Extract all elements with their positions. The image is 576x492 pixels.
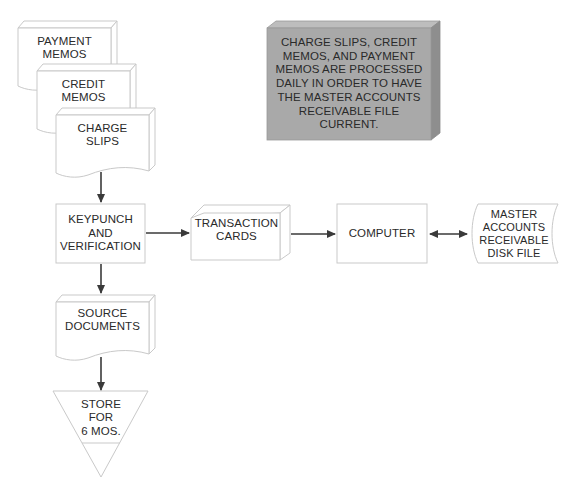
credit-memos-label: CREDIT MEMOS: [37, 71, 130, 111]
source-documents-label: SOURCE DOCUMENTS: [56, 302, 149, 338]
disk-file-label: MASTER ACCOUNTS RECEIVABLE DISK FILE: [470, 204, 558, 263]
note-text: CHARGE SLIPS, CREDIT MEMOS, AND PAYMENT …: [267, 28, 431, 140]
keypunch-label: KEYPUNCH AND VERIFICATION: [56, 204, 145, 263]
payment-memos-label: PAYMENT MEMOS: [18, 28, 111, 68]
computer-label: COMPUTER: [337, 204, 427, 263]
charge-slips-label: CHARGE SLIPS: [56, 115, 149, 155]
transaction-cards-label: TRANSACTION CARDS: [191, 208, 282, 252]
store-label: STORE FOR 6 MOS.: [56, 395, 146, 441]
